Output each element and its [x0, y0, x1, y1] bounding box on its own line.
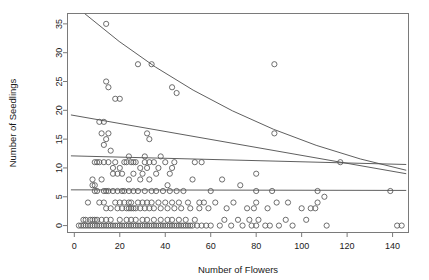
- data-point: [113, 160, 118, 165]
- data-point: [251, 206, 256, 211]
- data-point: [231, 200, 236, 205]
- data-point: [247, 217, 252, 222]
- data-point: [219, 177, 224, 182]
- data-point: [156, 165, 161, 170]
- data-point: [217, 223, 222, 228]
- line-lower: [71, 190, 406, 191]
- y-tick-label: 5: [55, 194, 65, 199]
- scatter-plot-figure: 02040608010012014005101520253035Number o…: [0, 0, 429, 280]
- data-point: [167, 188, 172, 193]
- data-point: [174, 188, 179, 193]
- data-point: [188, 206, 193, 211]
- data-point: [147, 177, 152, 182]
- data-point: [140, 171, 145, 176]
- data-point: [167, 171, 172, 176]
- data-point: [315, 188, 320, 193]
- data-point: [135, 62, 140, 67]
- data-point: [244, 206, 249, 211]
- data-point: [270, 188, 275, 193]
- data-point: [185, 200, 190, 205]
- data-point: [229, 223, 234, 228]
- plot-canvas: 02040608010012014005101520253035Number o…: [0, 0, 429, 280]
- y-tick-label: 20: [55, 105, 65, 115]
- data-point: [154, 171, 159, 176]
- data-point: [165, 183, 170, 188]
- data-point: [104, 137, 109, 142]
- data-point: [151, 217, 156, 222]
- data-point: [99, 177, 104, 182]
- data-point: [283, 217, 288, 222]
- curve-top: [85, 14, 407, 171]
- data-point: [276, 223, 281, 228]
- data-point: [99, 131, 104, 136]
- data-point: [265, 206, 270, 211]
- data-point: [304, 217, 309, 222]
- data-point: [169, 165, 174, 170]
- data-point: [142, 154, 147, 159]
- x-tick-label: 0: [72, 241, 77, 251]
- data-point: [199, 160, 204, 165]
- data-point: [126, 177, 131, 182]
- line-upper: [71, 115, 406, 174]
- data-point: [192, 160, 197, 165]
- x-tick-label: 120: [340, 241, 355, 251]
- data-point: [106, 85, 111, 90]
- data-point: [163, 160, 168, 165]
- data-point: [179, 206, 184, 211]
- data-point: [213, 200, 218, 205]
- data-point: [206, 206, 211, 211]
- data-point: [299, 206, 304, 211]
- data-point: [197, 206, 202, 211]
- data-point: [126, 154, 131, 159]
- data-point: [235, 217, 240, 222]
- data-point: [104, 21, 109, 26]
- data-point: [172, 160, 177, 165]
- data-point: [85, 200, 90, 205]
- data-point: [117, 165, 122, 170]
- data-point: [256, 217, 261, 222]
- data-point: [158, 206, 163, 211]
- data-point: [322, 194, 327, 199]
- data-point: [176, 200, 181, 205]
- x-tick-label: 60: [206, 241, 216, 251]
- data-point: [169, 85, 174, 90]
- y-tick-label: 35: [55, 19, 65, 29]
- data-point: [176, 217, 181, 222]
- data-point: [138, 165, 143, 170]
- data-point: [285, 200, 290, 205]
- data-point: [138, 177, 143, 182]
- data-point: [172, 206, 177, 211]
- data-point: [104, 79, 109, 84]
- data-point: [147, 137, 152, 142]
- y-tick-label: 0: [55, 223, 65, 228]
- data-point: [274, 200, 279, 205]
- x-tick-label: 20: [115, 241, 125, 251]
- y-tick-label: 30: [55, 48, 65, 58]
- y-axis-title: Number of Seedlings: [7, 78, 18, 167]
- data-point: [160, 188, 165, 193]
- x-tick-label: 40: [160, 241, 170, 251]
- data-point: [163, 200, 168, 205]
- data-point: [208, 188, 213, 193]
- data-point: [190, 177, 195, 182]
- data-point: [238, 183, 243, 188]
- data-point: [181, 188, 186, 193]
- x-tick-label: 100: [294, 241, 309, 251]
- x-tick-label: 80: [251, 241, 261, 251]
- data-point: [101, 142, 106, 147]
- data-point: [169, 200, 174, 205]
- data-point: [174, 90, 179, 95]
- data-point: [90, 177, 95, 182]
- data-point: [324, 223, 329, 228]
- data-point: [165, 206, 170, 211]
- y-tick-label: 15: [55, 134, 65, 144]
- data-point: [131, 171, 136, 176]
- data-point: [144, 131, 149, 136]
- data-point: [142, 188, 147, 193]
- data-point: [108, 148, 113, 153]
- data-point: [183, 217, 188, 222]
- data-point: [224, 206, 229, 211]
- data-point: [315, 200, 320, 205]
- data-point: [192, 217, 197, 222]
- data-point: [254, 188, 259, 193]
